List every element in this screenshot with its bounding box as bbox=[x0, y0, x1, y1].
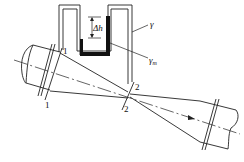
converging-cone-bottom bbox=[50, 91, 128, 98]
diverging-cone-top bbox=[130, 94, 200, 101]
inlet-pipe-bottom bbox=[26, 83, 50, 90]
section-1-bottom-label: 1 bbox=[45, 100, 50, 110]
inlet-pipe-top bbox=[33, 45, 60, 52]
outlet-flange-a bbox=[202, 99, 216, 150]
gamma-leader bbox=[132, 25, 148, 32]
manometer-liquid bbox=[80, 16, 110, 56]
outlet-pipe-break bbox=[228, 110, 238, 149]
pipe-centerline bbox=[14, 60, 240, 134]
inlet-flange-b bbox=[41, 44, 55, 96]
dh-label: Δh bbox=[92, 23, 103, 33]
section-2-bottom-label: 2 bbox=[124, 104, 129, 114]
dh-arrow-up-icon bbox=[90, 17, 94, 21]
section-2-top-label: 2 bbox=[135, 82, 140, 92]
dh-arrow-down-icon bbox=[90, 34, 94, 38]
gamma-m-label: γm bbox=[149, 55, 158, 66]
venturi-diagram: Δh γ γm 1 1 2 2 bbox=[0, 0, 244, 162]
gamma-m-leader bbox=[110, 43, 148, 58]
gamma-label: γ bbox=[150, 19, 154, 29]
section-1-top-label: 1 bbox=[63, 46, 68, 56]
manometer-outer-wall bbox=[59, 5, 132, 82]
